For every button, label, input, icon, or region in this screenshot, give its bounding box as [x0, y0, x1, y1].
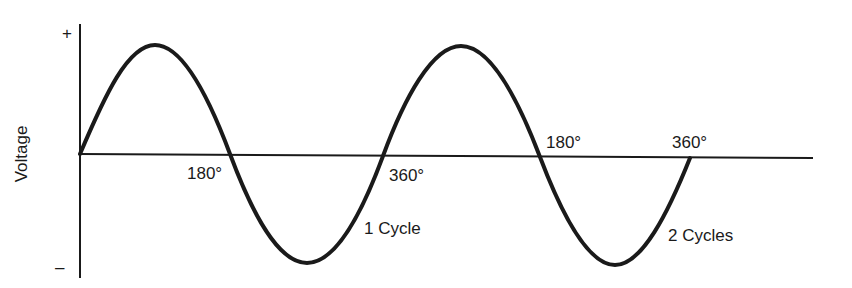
y-axis-label: Voltage	[12, 126, 32, 183]
angle-label-first-360: 360°	[389, 167, 424, 184]
two-cycles-label: 2 Cycles	[668, 227, 733, 244]
angle-label-second-360: 360°	[672, 134, 707, 151]
minus-sign-label: –	[55, 259, 64, 276]
angle-label-first-180: 180°	[187, 165, 222, 182]
angle-label-second-180: 180°	[546, 134, 581, 151]
one-cycle-label: 1 Cycle	[364, 220, 421, 237]
zero-axis	[80, 154, 813, 158]
plus-sign-label: +	[62, 25, 72, 42]
